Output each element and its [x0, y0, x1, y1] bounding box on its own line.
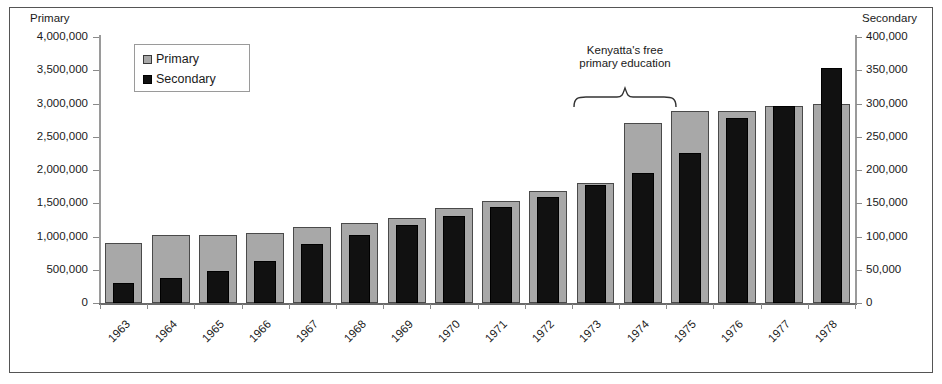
x-axis-tick	[619, 304, 620, 309]
bar-secondary	[160, 278, 182, 303]
legend-label-primary: Primary	[156, 52, 199, 66]
x-axis-tick	[808, 304, 809, 309]
x-axis-tick	[336, 304, 337, 309]
bar-secondary	[113, 283, 135, 303]
x-axis-tick	[242, 304, 243, 309]
bar-secondary	[254, 261, 276, 303]
left-axis-tick	[93, 70, 99, 71]
left-axis-tick	[93, 237, 99, 238]
legend-item-primary: Primary	[143, 52, 199, 66]
x-axis-tick	[430, 304, 431, 309]
right-axis-tick-label: 400,000	[866, 31, 908, 42]
left-axis-tick	[93, 270, 99, 271]
left-axis-tick-label: 500,000	[2, 264, 88, 275]
right-axis-tick	[856, 137, 862, 138]
bar-secondary	[396, 225, 418, 303]
left-axis-tick	[93, 37, 99, 38]
right-axis-tick	[856, 37, 862, 38]
x-axis-tick	[855, 304, 856, 309]
x-axis-tick	[666, 304, 667, 309]
bar-secondary	[490, 207, 512, 303]
right-axis-tick	[856, 303, 862, 304]
legend: Primary Secondary	[134, 44, 250, 92]
bar-secondary	[773, 106, 795, 303]
bar-secondary	[207, 271, 229, 303]
left-axis-tick	[93, 203, 99, 204]
x-axis-tick	[147, 304, 148, 309]
annotation-line-1: Kenyatta's free	[545, 44, 705, 57]
x-axis-tick	[289, 304, 290, 309]
left-axis-tick-label: 0	[2, 297, 88, 308]
legend-swatch-primary-icon	[143, 55, 152, 64]
left-axis-tick	[93, 303, 99, 304]
legend-label-secondary: Secondary	[156, 72, 216, 86]
annotation-line-2: primary education	[545, 57, 705, 70]
left-axis-tick-label: 3,000,000	[2, 98, 88, 109]
left-axis-tick-label: 2,000,000	[2, 164, 88, 175]
bar-secondary	[821, 68, 843, 303]
right-axis-tick-label: 250,000	[866, 131, 908, 142]
right-axis-tick-label: 100,000	[866, 231, 908, 242]
x-axis-tick	[194, 304, 195, 309]
bar-secondary	[632, 173, 654, 303]
bar-secondary	[726, 118, 748, 303]
right-axis-tick-label: 300,000	[866, 98, 908, 109]
x-axis-tick	[383, 304, 384, 309]
right-axis-tick	[856, 237, 862, 238]
left-axis-tick	[93, 104, 99, 105]
right-axis-tick-label: 0	[866, 297, 872, 308]
left-axis-tick-label: 4,000,000	[2, 31, 88, 42]
left-axis-tick-label: 3,500,000	[2, 64, 88, 75]
bar-secondary	[537, 197, 559, 303]
right-axis-tick	[856, 104, 862, 105]
chart-figure: Primary Secondary 1963196419651966196719…	[0, 0, 942, 384]
left-axis-tick-label: 2,500,000	[2, 131, 88, 142]
right-axis-tick	[856, 270, 862, 271]
legend-item-secondary: Secondary	[143, 72, 216, 86]
bar-secondary	[349, 235, 371, 303]
right-axis-tick-label: 150,000	[866, 197, 908, 208]
right-axis-tick	[856, 203, 862, 204]
left-axis-tick-label: 1,500,000	[2, 197, 88, 208]
left-axis-title: Primary	[30, 12, 70, 24]
left-axis-tick-label: 1,000,000	[2, 231, 88, 242]
right-axis-title: Secondary	[862, 12, 917, 24]
right-axis-tick-label: 350,000	[866, 64, 908, 75]
x-axis-tick	[761, 304, 762, 309]
x-axis-tick	[478, 304, 479, 309]
x-axis-tick	[525, 304, 526, 309]
curly-brace-up-icon	[572, 86, 678, 108]
bar-secondary	[301, 244, 323, 303]
bar-secondary	[585, 185, 607, 303]
legend-swatch-secondary-icon	[143, 75, 152, 84]
x-axis-tick	[713, 304, 714, 309]
x-axis-tick	[100, 304, 101, 309]
right-axis-tick-label: 200,000	[866, 164, 908, 175]
left-axis-tick	[93, 170, 99, 171]
bar-secondary	[443, 216, 465, 303]
right-axis-tick	[856, 70, 862, 71]
left-axis-tick	[93, 137, 99, 138]
x-axis-tick	[572, 304, 573, 309]
annotation-text: Kenyatta's free primary education	[545, 44, 705, 70]
right-axis-tick-label: 50,000	[866, 264, 901, 275]
bar-secondary	[679, 153, 701, 303]
right-axis-tick	[856, 170, 862, 171]
